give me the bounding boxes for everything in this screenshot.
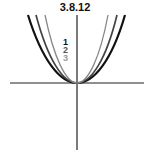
chart-plot	[0, 0, 150, 165]
legend-label-3: 3	[63, 55, 68, 62]
